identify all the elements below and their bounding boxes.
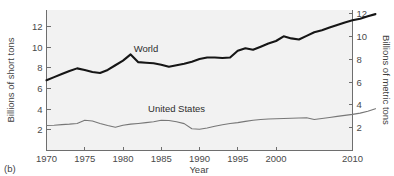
figure-panel-b: 19701975198019851990199520002010 2468101…	[0, 0, 394, 176]
emissions-line-chart: 19701975198019851990199520002010 2468101…	[0, 0, 394, 176]
x-tick-label: 1990	[189, 153, 210, 164]
x-tick-label: 1985	[151, 153, 172, 164]
y-tick-label-right: 8	[357, 54, 362, 65]
y-axis-title-left: Billions of short tons	[5, 37, 16, 122]
y-tick-label-left: 8	[37, 62, 42, 73]
x-tick-label: 2000	[265, 153, 286, 164]
y-tick-label-right: 10	[357, 31, 368, 42]
x-tick-label: 1980	[112, 153, 133, 164]
y-tick-label-left: 4	[37, 104, 42, 115]
y-tick-label-left: 6	[37, 83, 42, 94]
y-tick-label-left: 10	[32, 42, 43, 53]
y-tick-label-right: 6	[357, 77, 362, 88]
x-tick-label: 1975	[74, 153, 95, 164]
y-tick-label-right: 4	[357, 99, 362, 110]
x-tick-label: 2010	[342, 153, 363, 164]
x-axis-title: Year	[189, 164, 208, 175]
y-tick-label-left: 12	[32, 21, 43, 32]
y-axis-title-right: Billions of metric tons	[381, 35, 392, 125]
x-tick-label: 1970	[36, 153, 57, 164]
y-tick-label-left: 2	[37, 124, 42, 135]
series-label-world: World	[134, 43, 159, 54]
panel-caption: (b)	[4, 163, 16, 174]
x-tick-label: 1995	[227, 153, 248, 164]
series-label-united-states: United States	[148, 103, 205, 114]
y-tick-label-right: 2	[357, 122, 362, 133]
